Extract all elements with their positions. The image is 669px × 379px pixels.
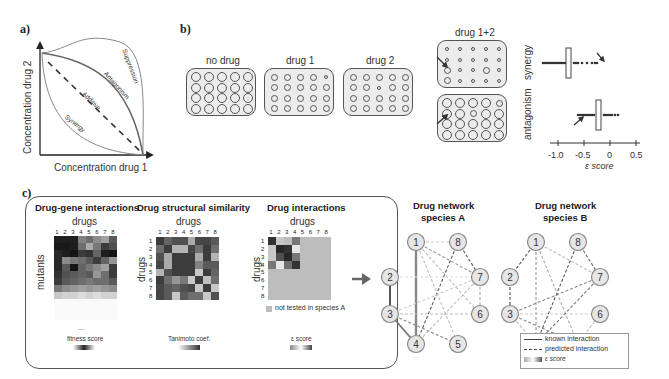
- heatmap-cell: [78, 306, 86, 313]
- heatmap-cell: [78, 243, 86, 250]
- row-number: 1: [261, 238, 267, 244]
- heatmap-cell: [109, 271, 117, 278]
- heatmap-cell: [62, 313, 70, 320]
- heatmap-cell: [101, 257, 109, 264]
- row-numbers-3: 12345678: [261, 237, 267, 300]
- svg-text:6: 6: [597, 309, 603, 320]
- heatmap-cell: [211, 237, 219, 245]
- heatmap-cell: [323, 237, 331, 245]
- heatmap-cell: [300, 284, 308, 292]
- heatmap-cell: [268, 245, 276, 253]
- heatmap-cell: [164, 292, 172, 300]
- legend-epsilon-score: ε score: [291, 335, 312, 342]
- col-numbers-3: 12345678: [267, 229, 330, 235]
- row-number: 4: [149, 262, 155, 268]
- heatmap-cell: [70, 236, 78, 243]
- heatmap-cell: [62, 236, 70, 243]
- heatmap-cell: [276, 276, 284, 284]
- heatmap-cell: [156, 245, 164, 253]
- heatmap-cell: [78, 292, 86, 299]
- heatmap-cell: [86, 292, 94, 299]
- heatmap-cell: [172, 253, 180, 261]
- heatmap-cell: [93, 292, 101, 299]
- heatmap-cell: [164, 245, 172, 253]
- row-number: 7: [261, 285, 267, 291]
- known-line-icon: [524, 339, 542, 340]
- svg-text:8: 8: [575, 237, 581, 248]
- heatmap-cell: [70, 285, 78, 292]
- predicted-interaction-edge: [390, 277, 480, 314]
- heatmap-cell: [156, 276, 164, 284]
- heatmap-cell: [54, 292, 62, 299]
- tick-neg05: -0.5: [575, 150, 591, 160]
- heatmap-cell: [315, 261, 323, 269]
- heatmap-cell: [164, 253, 172, 261]
- heatmap-cell: [268, 261, 276, 269]
- heatmap-cell: [109, 264, 117, 271]
- heatmap-cell: [203, 269, 211, 277]
- x-label-drugs-2: drugs: [176, 216, 201, 227]
- heatmap-cell: [93, 278, 101, 285]
- heatmap-cell: [62, 271, 70, 278]
- heatmap-cell: [203, 261, 211, 269]
- legend-known: known interaction: [545, 335, 599, 342]
- col-number: 1: [55, 229, 58, 235]
- row-number: 2: [149, 246, 155, 252]
- heatmap-cell: [86, 250, 94, 257]
- heatmap-cell: [164, 284, 172, 292]
- network-legend: known interaction predicted interaction …: [520, 333, 629, 369]
- heatmap-cell: [101, 236, 109, 243]
- heatmap-cell: [54, 313, 62, 320]
- heatmap-cell: [180, 292, 188, 300]
- heatmap-drug-interactions: [268, 237, 331, 300]
- heatmap-cell: [315, 292, 323, 300]
- heatmap-cell: [62, 250, 70, 257]
- row-label-synergy: synergy: [522, 45, 533, 80]
- network-node: 4: [408, 336, 425, 353]
- heatmap-cell: [70, 306, 78, 313]
- legend-epsilon: ε score: [545, 355, 566, 362]
- heatmap-cell: [78, 285, 86, 292]
- heatmap-cell: [172, 284, 180, 292]
- network-node: 8: [570, 234, 587, 251]
- network-node: 2: [502, 269, 519, 286]
- x-axis-label-epsilon: ε score: [585, 161, 613, 171]
- predicted-interaction-edge: [416, 242, 480, 314]
- col-number: 7: [206, 229, 209, 235]
- svg-text:2: 2: [507, 272, 513, 283]
- col-number: 4: [79, 229, 82, 235]
- heatmap-cell: [78, 299, 86, 306]
- heatmap-cell: [54, 271, 62, 278]
- heatmap-cell: [300, 292, 308, 300]
- heatmap-cell: [62, 264, 70, 271]
- heatmap-cell: [268, 276, 276, 284]
- heatmap-cell: [300, 237, 308, 245]
- heatmap-cell: [203, 292, 211, 300]
- heatmap-cell: [300, 261, 308, 269]
- heatmap-cell: [156, 261, 164, 269]
- right-arrow-icon: [352, 272, 372, 286]
- heatmap-cell: [86, 243, 94, 250]
- heatmap-cell: [315, 237, 323, 245]
- heatmap-cell: [86, 299, 94, 306]
- network-b-title-line1: Drug network: [535, 200, 596, 211]
- heatmap-cell: [54, 236, 62, 243]
- tick-05: 0.5: [630, 150, 643, 160]
- epsilon-boxplots: [540, 40, 669, 150]
- heatmap-cell: [188, 284, 196, 292]
- heatmap-cell: [70, 278, 78, 285]
- network-node: 3: [382, 306, 399, 323]
- heatmap-cell: [180, 253, 188, 261]
- row-number: 2: [261, 246, 267, 252]
- network-node: 6: [592, 306, 609, 323]
- heatmap-cell: [188, 253, 196, 261]
- heatmap-cell: [315, 245, 323, 253]
- col-number: 2: [277, 229, 280, 235]
- heatmap-cell: [156, 269, 164, 277]
- predicted-interaction-edge: [416, 277, 480, 344]
- svg-text:4: 4: [413, 339, 419, 350]
- svg-text:2: 2: [387, 272, 393, 283]
- col-number: 5: [190, 229, 193, 235]
- heatmap-cell: [211, 284, 219, 292]
- predicted-interaction-edge: [510, 277, 600, 314]
